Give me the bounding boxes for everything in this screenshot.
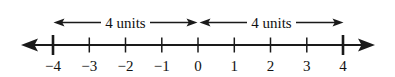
span-annotations: 4 units 4 units bbox=[54, 15, 344, 31]
tick-label-0: 0 bbox=[194, 58, 202, 74]
span-right-group: 4 units bbox=[200, 15, 344, 31]
number-line-figure: 4 units 4 units bbox=[0, 0, 395, 77]
tick-label-neg1: −1 bbox=[154, 58, 170, 74]
tick-label-3: 3 bbox=[303, 58, 311, 74]
number-line-axis: −4 −3 −2 −1 0 1 2 3 4 bbox=[21, 35, 375, 74]
tick-label-2: 2 bbox=[267, 58, 275, 74]
tick-label-neg3: −3 bbox=[81, 58, 97, 74]
tick-label-neg4: −4 bbox=[45, 58, 61, 74]
tick-label-1: 1 bbox=[231, 58, 239, 74]
span-right-label: 4 units bbox=[251, 15, 292, 31]
tick-label-neg2: −2 bbox=[118, 58, 134, 74]
tick-label-4: 4 bbox=[339, 58, 347, 74]
span-left-group: 4 units bbox=[54, 15, 198, 31]
span-left-label: 4 units bbox=[105, 15, 146, 31]
